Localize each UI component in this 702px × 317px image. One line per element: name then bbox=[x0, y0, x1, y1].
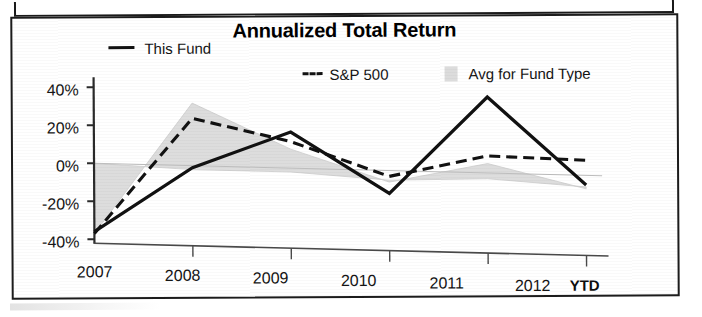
x-axis-tick-label: 2008 bbox=[148, 267, 218, 285]
scan-artifact-bottom-smudge bbox=[10, 302, 160, 310]
x-axis-ytd-note: YTD bbox=[570, 277, 600, 294]
x-axis-tick-label: 2009 bbox=[236, 269, 306, 287]
x-axis-tick-label: 2010 bbox=[324, 272, 394, 290]
x-axis-tick-label: 2007 bbox=[60, 263, 130, 281]
y-axis-tick-label: 0% bbox=[17, 157, 79, 175]
x-axis-tick-label: 2012 bbox=[498, 277, 568, 295]
x-axis-tick-label: 2011 bbox=[412, 274, 482, 292]
annualized-total-return-chart-panel: Annualized Total Return This Fund S&P 50… bbox=[10, 13, 679, 299]
chart-inner: Annualized Total Return This Fund S&P 50… bbox=[12, 15, 677, 297]
y-axis-tick-label: 20% bbox=[17, 119, 79, 137]
plot-area bbox=[12, 15, 681, 301]
y-axis-tick-label: -40% bbox=[17, 233, 79, 251]
y-axis-tick-label: -20% bbox=[17, 195, 79, 213]
y-axis-tick-label: 40% bbox=[17, 81, 79, 99]
